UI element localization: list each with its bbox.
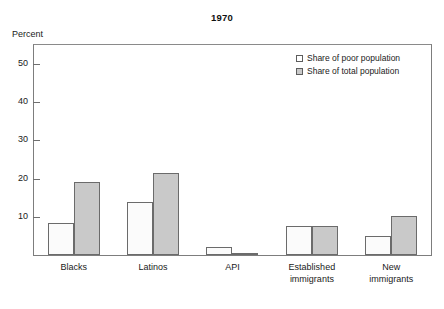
bar-poor — [127, 202, 153, 255]
bar-group — [193, 45, 272, 255]
y-axis-tick — [33, 140, 40, 141]
legend-item: Share of poor population — [296, 52, 400, 64]
x-axis-label-line: Blacks — [34, 262, 113, 274]
y-axis-tick — [33, 102, 40, 103]
x-axis-label: API — [193, 262, 272, 274]
y-axis-caption: Percent — [12, 29, 43, 39]
x-axis-label: Latinos — [113, 262, 192, 274]
y-axis-tick — [33, 217, 40, 218]
chart-title: 1970 — [0, 12, 444, 23]
bar-total — [74, 182, 100, 255]
y-axis-tick-label: 10 — [8, 211, 28, 221]
x-axis-label: Establishedimmigrants — [272, 262, 351, 285]
x-axis-label-line: immigrants — [352, 274, 431, 286]
legend-item: Share of total population — [296, 65, 400, 77]
x-axis-label-line: Established — [272, 262, 351, 274]
chart-legend: Share of poor populationShare of total p… — [296, 52, 400, 78]
bar-total — [391, 216, 417, 255]
legend-item-label: Share of total population — [307, 66, 399, 76]
bar-poor — [48, 223, 74, 255]
y-axis-tick-label: 40 — [8, 96, 28, 106]
bar-group — [34, 45, 113, 255]
bar-poor — [365, 236, 391, 255]
y-axis-tick — [33, 64, 40, 65]
chart-figure: 1970 Percent BlacksLatinosAPIEstablished… — [0, 0, 444, 309]
x-axis-label-line: immigrants — [272, 274, 351, 286]
x-axis-label-line: Latinos — [113, 262, 192, 274]
bar-poor — [206, 247, 232, 255]
x-axis-label: Newimmigrants — [352, 262, 431, 285]
x-axis-label: Blacks — [34, 262, 113, 274]
legend-item-label: Share of poor population — [307, 53, 400, 63]
y-axis-tick — [33, 179, 40, 180]
x-axis-label-line: API — [193, 262, 272, 274]
bar-total — [312, 226, 338, 255]
bar-poor — [286, 226, 312, 255]
bar-group — [113, 45, 192, 255]
filled-square-icon — [296, 68, 303, 75]
y-axis-tick-label: 30 — [8, 134, 28, 144]
x-axis-category-labels: BlacksLatinosAPIEstablishedimmigrantsNew… — [34, 262, 431, 306]
x-axis-label-line: New — [352, 262, 431, 274]
bar-total — [232, 253, 258, 255]
y-axis-tick-label: 50 — [8, 58, 28, 68]
open-square-icon — [296, 55, 303, 62]
bar-total — [153, 173, 179, 255]
y-axis-tick-label: 20 — [8, 173, 28, 183]
